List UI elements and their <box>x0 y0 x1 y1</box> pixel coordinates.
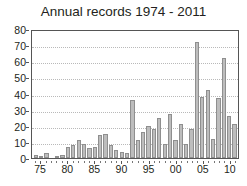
y-axis-tick-label: 50 <box>14 73 26 84</box>
bar <box>146 126 150 158</box>
y-axis-tick <box>26 78 29 79</box>
y-axis-tick-label: 30 <box>14 105 26 116</box>
x-axis-minor-tick <box>132 161 133 163</box>
bar-series <box>32 31 238 158</box>
bar <box>163 144 167 159</box>
bar <box>93 147 97 158</box>
x-axis-minor-tick <box>78 161 79 163</box>
x-axis-minor-tick <box>159 161 160 163</box>
bar <box>60 155 64 158</box>
bar <box>77 140 81 158</box>
y-axis-tick <box>26 159 29 160</box>
bar <box>103 134 107 158</box>
bar <box>109 145 113 158</box>
x-axis-tick-label: 75 <box>34 164 46 175</box>
x-axis-minor-tick <box>51 161 52 163</box>
bar <box>44 153 48 158</box>
y-axis-tick <box>26 62 29 63</box>
bar <box>87 148 91 158</box>
x-axis-tick-label: 10 <box>224 164 236 175</box>
bar-chart-figure: Annual records 1974 - 2011 0102030405060… <box>0 0 247 186</box>
plot-area <box>31 30 239 159</box>
bar <box>55 156 59 158</box>
bar <box>232 124 236 158</box>
y-axis-tick-label: 40 <box>14 89 26 100</box>
x-axis-minor-tick <box>56 161 57 163</box>
x-axis-minor-tick <box>187 161 188 163</box>
bar <box>39 156 43 158</box>
x-axis-minor-tick <box>111 161 112 163</box>
y-axis-tick-label: 80 <box>14 25 26 36</box>
x-axis-minor-tick <box>219 161 220 163</box>
chart-title: Annual records 1974 - 2011 <box>0 4 247 19</box>
bar <box>216 98 220 158</box>
y-axis-tick <box>26 30 29 31</box>
bar <box>71 145 75 158</box>
bar-slot <box>232 31 237 158</box>
x-axis: 7580859095000510 <box>31 161 239 181</box>
x-axis-minor-tick <box>138 161 139 163</box>
y-axis-tick <box>26 111 29 112</box>
x-axis-minor-tick <box>105 161 106 163</box>
bar <box>82 144 86 159</box>
y-axis-tick <box>26 46 29 47</box>
bar <box>34 155 38 158</box>
bar <box>222 58 226 158</box>
bar <box>98 135 102 158</box>
bar <box>195 42 199 158</box>
bar <box>227 116 231 158</box>
y-axis-tick-label: 70 <box>14 41 26 52</box>
bar <box>173 140 177 158</box>
bar <box>184 144 188 159</box>
bar <box>120 152 124 158</box>
y-axis-tick-label: 60 <box>14 57 26 68</box>
bar <box>211 139 215 158</box>
y-axis-tick <box>26 127 29 128</box>
bar <box>66 147 70 158</box>
bar <box>130 100 134 158</box>
bar <box>179 124 183 158</box>
bar <box>206 90 210 158</box>
x-axis-tick-label: 95 <box>143 164 155 175</box>
bar <box>136 140 140 158</box>
x-axis-minor-tick <box>214 161 215 163</box>
bar <box>189 129 193 158</box>
x-axis-tick-label: 05 <box>197 164 209 175</box>
x-axis-minor-tick <box>192 161 193 163</box>
y-axis-tick-label: 20 <box>14 122 26 133</box>
bar <box>200 97 204 158</box>
bar <box>168 114 172 158</box>
x-axis-minor-tick <box>165 161 166 163</box>
bar <box>157 118 161 158</box>
x-axis-tick-label: 85 <box>88 164 100 175</box>
x-axis-tick-label: 80 <box>61 164 73 175</box>
x-axis-tick-label: 90 <box>116 164 128 175</box>
y-axis-tick-label: 10 <box>14 138 26 149</box>
bar <box>114 150 118 158</box>
y-axis-tick <box>26 143 29 144</box>
y-axis: 01020304050607080 <box>0 30 29 159</box>
bar <box>125 153 129 158</box>
bar <box>152 129 156 158</box>
y-axis-tick <box>26 95 29 96</box>
x-axis-minor-tick <box>84 161 85 163</box>
x-axis-tick-label: 00 <box>170 164 182 175</box>
bar <box>141 132 145 158</box>
